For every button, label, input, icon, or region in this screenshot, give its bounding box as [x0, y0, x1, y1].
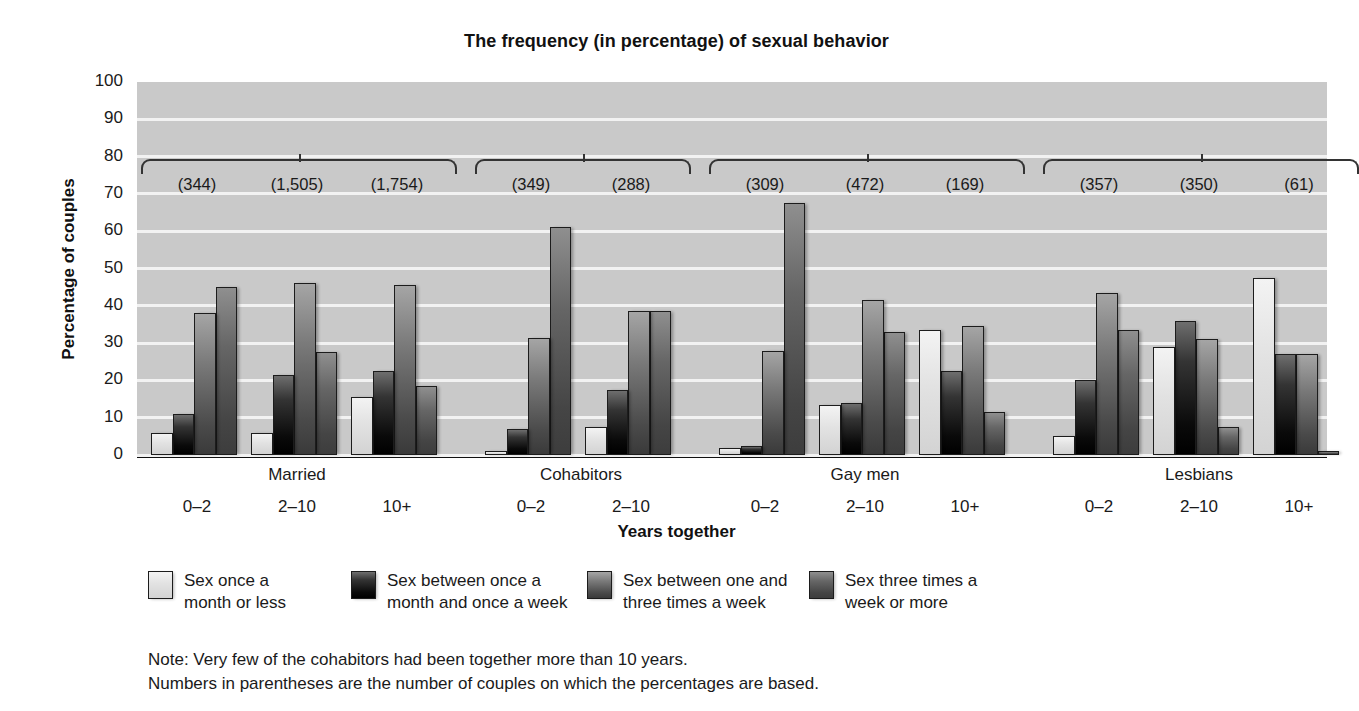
bar [194, 313, 216, 455]
bracket-tick [1201, 154, 1203, 162]
legend-label: Sex between one and three times a week [623, 570, 787, 614]
bar [841, 403, 863, 455]
sample-size-label: (357) [1080, 175, 1119, 194]
bar [650, 311, 672, 455]
sample-size-label: (309) [746, 175, 785, 194]
y-axis-tick-label: 90 [63, 108, 123, 128]
bar [741, 446, 763, 455]
sample-size-label: (344) [178, 175, 217, 194]
x-axis-category-label: 2–10 [612, 497, 650, 517]
bar-cluster [719, 82, 811, 455]
x-axis-category-label: 10+ [383, 497, 412, 517]
x-axis-title: Years together [0, 522, 1353, 542]
sample-size-bracket [141, 159, 457, 174]
bar [1053, 436, 1075, 455]
bar [1118, 330, 1140, 455]
bar-cluster [485, 82, 577, 455]
y-axis-tick-label: 60 [63, 220, 123, 240]
sample-size-label: (61) [1284, 175, 1313, 194]
legend-item[interactable]: Sex between once a month and once a week [351, 570, 587, 614]
chart-legend: Sex once a month or lessSex between once… [148, 570, 1009, 614]
sample-size-label: (1,505) [271, 175, 323, 194]
bar-cluster [251, 82, 343, 455]
bar [294, 283, 316, 455]
bar [984, 412, 1006, 455]
bar [607, 390, 629, 455]
legend-label: Sex three times a week or more [845, 570, 977, 614]
x-axis-category-label: 2–10 [278, 497, 316, 517]
legend-item[interactable]: Sex between one and three times a week [587, 570, 809, 614]
bar-cluster [1153, 82, 1245, 455]
x-axis-group-label: Married [268, 465, 326, 485]
sample-size-label: (350) [1180, 175, 1219, 194]
bar [351, 397, 373, 455]
sample-size-bracket [709, 159, 1025, 174]
sample-size-label: (288) [612, 175, 651, 194]
chart-title: The frequency (in percentage) of sexual … [0, 31, 1353, 52]
x-axis-category-label: 0–2 [183, 497, 211, 517]
legend-item[interactable]: Sex three times a week or more [809, 570, 1009, 614]
x-axis-category-label: 2–10 [1180, 497, 1218, 517]
bar [416, 386, 438, 455]
x-axis-group-label: Gay men [831, 465, 900, 485]
bar [173, 414, 195, 455]
bar [1275, 354, 1297, 455]
y-axis-tick-label: 40 [63, 295, 123, 315]
y-axis-tick-label: 80 [63, 146, 123, 166]
bar [762, 351, 784, 455]
y-axis-tick-label: 50 [63, 258, 123, 278]
sample-size-label: (169) [946, 175, 985, 194]
bar-cluster [919, 82, 1011, 455]
bar [1075, 380, 1097, 455]
legend-swatch [148, 571, 173, 599]
sample-size-bracket [475, 159, 691, 174]
bar-cluster [1053, 82, 1145, 455]
legend-swatch [351, 571, 376, 599]
x-axis-category-label: 0–2 [1085, 497, 1113, 517]
bar [1218, 427, 1240, 455]
legend-swatch [587, 571, 612, 599]
bar [784, 203, 806, 455]
x-axis-category-label: 10+ [1285, 497, 1314, 517]
bar-cluster [819, 82, 911, 455]
bar [941, 371, 963, 455]
bar [251, 433, 273, 455]
x-axis-category-label: 0–2 [517, 497, 545, 517]
sample-size-label: (1,754) [371, 175, 423, 194]
bar [585, 427, 607, 455]
chart-note: Note: Very few of the cohabitors had bee… [148, 648, 819, 696]
bar [1096, 293, 1118, 455]
bar [507, 429, 529, 455]
y-axis-tick-label: 100 [63, 71, 123, 91]
sample-size-bracket [1043, 159, 1359, 174]
x-axis-group-label: Lesbians [1165, 465, 1233, 485]
bar [962, 326, 984, 455]
bar [485, 451, 507, 455]
bracket-tick [867, 154, 869, 162]
bar [216, 287, 238, 455]
x-axis-group-label: Cohabitors [540, 465, 622, 485]
bar-cluster [585, 82, 677, 455]
bar [528, 338, 550, 455]
bar [1175, 321, 1197, 455]
bar [273, 375, 295, 455]
bar [151, 433, 173, 455]
x-axis-category-label: 2–10 [846, 497, 884, 517]
bar-cluster [151, 82, 243, 455]
x-axis-category-label: 0–2 [751, 497, 779, 517]
bar [919, 330, 941, 455]
bar [819, 405, 841, 455]
bar [628, 311, 650, 455]
bracket-tick [583, 154, 585, 162]
bar [719, 448, 741, 455]
bar [1253, 278, 1275, 455]
bar [1296, 354, 1318, 455]
legend-swatch [809, 571, 834, 599]
bar [316, 352, 338, 455]
bar [1318, 451, 1340, 455]
y-axis-tick-label: 10 [63, 407, 123, 427]
bar [862, 300, 884, 455]
legend-item[interactable]: Sex once a month or less [148, 570, 351, 614]
y-axis-tick-label: 30 [63, 332, 123, 352]
legend-label: Sex once a month or less [184, 570, 286, 614]
